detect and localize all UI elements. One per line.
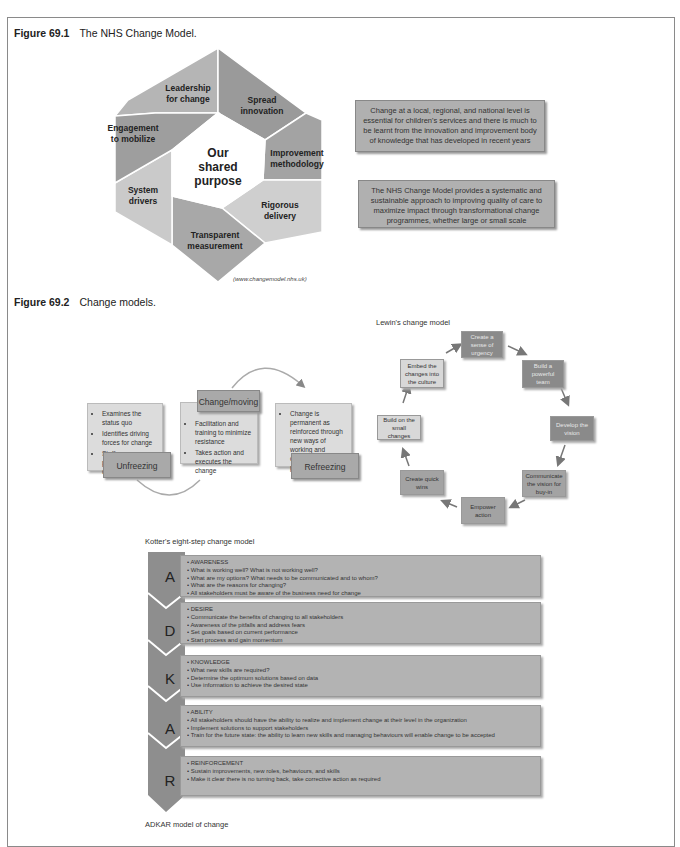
- info-box-nhs-model: The NHS Change Model provides a systemat…: [358, 180, 555, 228]
- kotter-step-1: Create a sense of urgency: [461, 331, 503, 358]
- adkar-caption: ADKAR model of change: [145, 820, 228, 829]
- label-rigorous: Rigorousdelivery: [240, 200, 320, 222]
- adkar-row-awareness: • AWARENESS • What is working well? What…: [180, 555, 541, 597]
- label-engagement: Engagementto mobilize: [93, 123, 173, 145]
- label-transparent: Transparentmeasurement: [175, 230, 255, 252]
- label-leadership: Leadershipfor change: [148, 83, 228, 105]
- label-spread: Spreadinnovation: [222, 95, 302, 117]
- kotter-step-4: Communicate the vision for buy-in: [522, 470, 566, 497]
- kotter-step-8: Embed the changes into the culture: [400, 359, 444, 388]
- adkar-row-reinforcement: • REINFORCEMENT • Sustain improvements, …: [180, 756, 541, 796]
- figure-number: Figure 69.2: [14, 296, 69, 308]
- figure-caption: Change models.: [79, 296, 155, 308]
- segment-leadership: [115, 48, 218, 116]
- kotter-step-6: Create quick wins: [400, 470, 444, 495]
- kotter-step-7: Build on the small changes: [377, 415, 421, 440]
- label-system: Systemdrivers: [103, 185, 183, 207]
- stage-change-moving: Change/moving: [197, 390, 260, 412]
- stage-refreezing: Refreezing: [291, 453, 359, 479]
- kotter-step-3: Develop the vision: [550, 416, 594, 441]
- source-credit: (www.changemodel.nhs.uk): [233, 276, 307, 282]
- stage-unfreezing: Unfreezing: [103, 452, 171, 478]
- label-improvement: Improvementmethodology: [257, 148, 337, 170]
- lewin-model-label: Lewin's change model: [376, 318, 450, 327]
- kotter-model-caption: Kotter's eight-step change model: [145, 537, 254, 546]
- adkar-row-desire: • DESIRE • Communicate the benefits of c…: [180, 602, 541, 644]
- kotter-step-5: Empower action: [461, 497, 505, 524]
- kotter-step-2: Build a powerful team: [522, 360, 564, 388]
- adkar-row-knowledge: • KNOWLEDGE • What new skills are requir…: [180, 655, 541, 697]
- adkar-row-ability: • ABILITY • All stakeholders should have…: [180, 705, 541, 747]
- figure-69-2-title: Figure 69.2Change models.: [14, 296, 156, 308]
- info-box-children-services: Change at a local, regional, and nationa…: [355, 100, 545, 152]
- center-label: Oursharedpurpose: [183, 146, 253, 188]
